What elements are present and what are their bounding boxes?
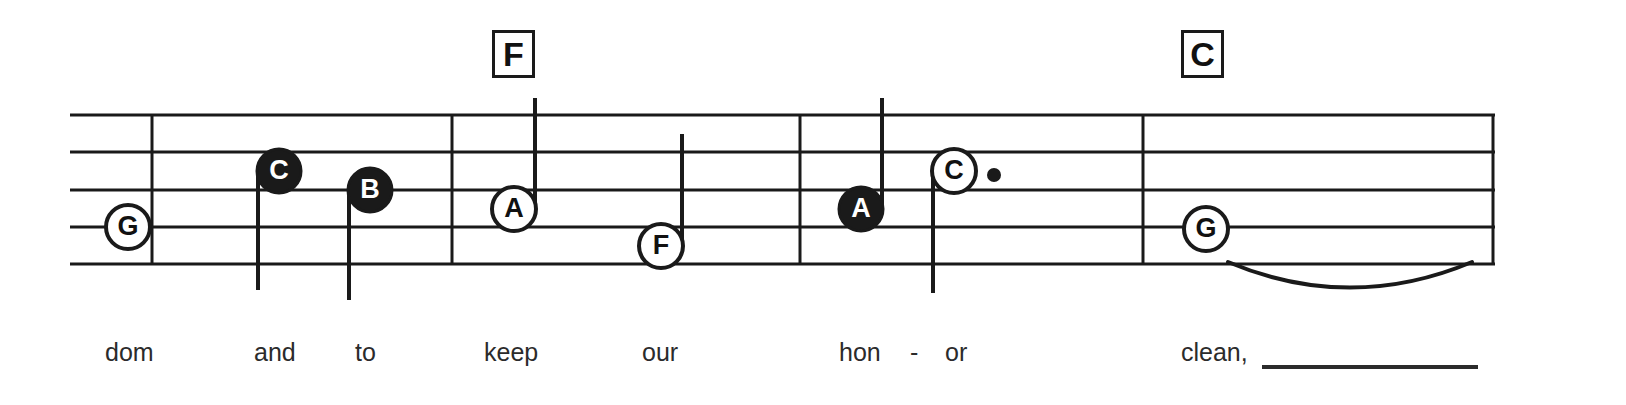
music-notation-sheet: FC GCBAFACG domandtokeepourhon-orclean, [0,0,1626,405]
staff-notation-canvas [0,0,1626,405]
note-C2-augmentation-dot [987,168,1001,182]
tie-slur-curve [1228,262,1472,288]
chord-symbol-c[interactable]: C [1181,30,1224,78]
note-C-head[interactable] [257,149,301,193]
lyric-syllable: or [945,340,967,365]
lyric-syllable: hon [839,340,881,365]
lyric-syllable: our [642,340,678,365]
note-G2-head[interactable] [1184,207,1228,251]
note-A-head[interactable] [492,187,536,231]
lyric-syllable: to [355,340,376,365]
lyric-syllable: - [910,340,918,365]
lyric-syllable: dom [105,340,154,365]
tie-slur [1228,262,1472,288]
note-C2-head[interactable] [932,149,976,193]
chord-symbol-f[interactable]: F [492,30,535,78]
noteheads [106,149,1228,268]
lyric-syllable: keep [484,340,538,365]
lyric-syllable: clean, [1181,340,1248,365]
note-B-head[interactable] [348,168,392,212]
note-A2-head[interactable] [839,187,883,231]
augmentation-dots [987,168,1001,182]
lyric-syllable: and [254,340,296,365]
note-G-head[interactable] [106,205,150,249]
note-F-head[interactable] [639,224,683,268]
